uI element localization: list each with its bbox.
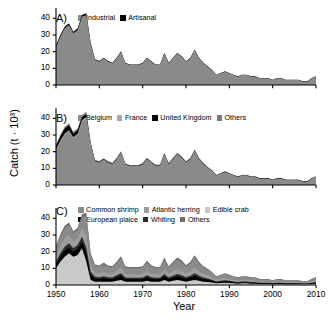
y-tick-label: 0 xyxy=(28,279,50,289)
x-tick-label: 1990 xyxy=(214,289,244,299)
y-tick-label: 30 xyxy=(28,29,50,39)
y-tick-label: 40 xyxy=(28,12,50,22)
x-tick-label: 2010 xyxy=(301,289,330,299)
y-tick-label: 40 xyxy=(28,212,50,222)
y-tick-label: 0 xyxy=(28,79,50,89)
y-tick-label: 20 xyxy=(28,246,50,256)
y-tick-label: 20 xyxy=(28,146,50,156)
y-tick-label: 10 xyxy=(28,62,50,72)
x-tick-label: 2000 xyxy=(258,289,288,299)
y-tick-label: 10 xyxy=(28,262,50,272)
x-tick-label: 1950 xyxy=(41,289,71,299)
y-tick-label: 20 xyxy=(28,46,50,56)
y-tick-label: 30 xyxy=(28,129,50,139)
x-tick-label: 1970 xyxy=(128,289,158,299)
x-tick-label: 1980 xyxy=(171,289,201,299)
y-tick-label: 30 xyxy=(28,229,50,239)
y-tick-label: 10 xyxy=(28,162,50,172)
y-tick-label: 40 xyxy=(28,112,50,122)
x-tick-label: 1960 xyxy=(84,289,114,299)
y-tick-label: 0 xyxy=(28,179,50,189)
